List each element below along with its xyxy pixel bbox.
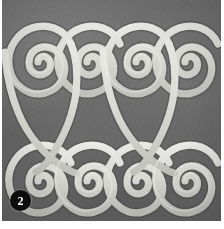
spiral-meander-pattern [2, 0, 221, 221]
caption-strip [0, 221, 224, 229]
photograph-plate: 2 [2, 0, 221, 221]
figure-plate-2: 2 [0, 0, 224, 229]
figure-number-label: 2 [18, 194, 24, 206]
figure-number-badge: 2 [10, 190, 31, 211]
